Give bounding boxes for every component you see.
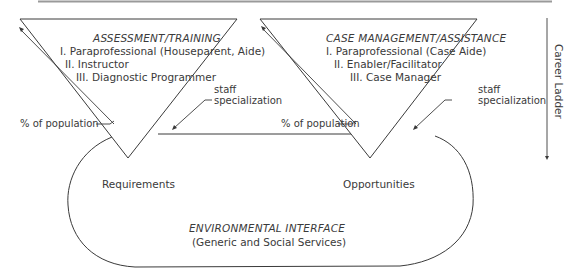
level-1-label: I. Paraprofessional (Case Aide) [326,45,486,57]
level-3-label: III. Case Manager [350,71,441,83]
right-staff-arrow [415,100,445,128]
left-population-label: % of population [20,118,99,130]
level-2-label: II. Instructor [65,58,129,70]
arrowhead-icon [261,26,266,31]
level-2-label: II. Enabler/Facilitator [334,58,442,70]
left-specialization-label: specialization [214,95,282,107]
level-3-label: III. Diagnostic Programmer [76,71,216,83]
assessment-training-title: ASSESSMENT/TRAINING [93,32,221,44]
case-management-title: CASE MANAGEMENT/ASSISTANCE [326,32,506,44]
right-specialization-label: specialization [478,95,546,107]
left-staff-arrow [174,100,205,128]
career-ladder-label: Career Ladder [553,44,565,119]
environmental-interface-subtitle: (Generic and Social Services) [192,236,346,248]
environmental-interface-title: ENVIRONMENTAL INTERFACE [189,222,345,234]
arrowhead-icon [545,156,549,160]
arrowhead-icon [19,27,24,32]
level-1-label: I. Paraprofessional (Houseparent, Aide) [60,45,265,57]
right-population-label: % of population [281,118,360,130]
requirements-label: Requirements [102,178,175,190]
opportunities-label: Opportunities [343,178,415,190]
